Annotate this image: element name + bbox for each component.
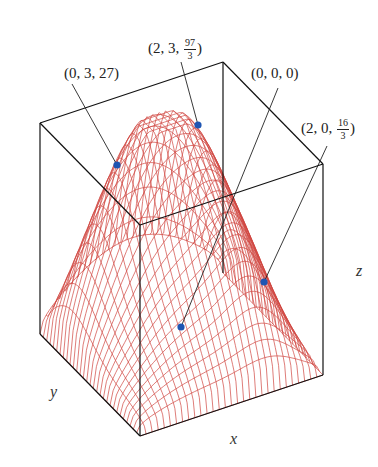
point-label-2-0-16-3: (2, 0, 163) xyxy=(301,118,355,141)
z-axis-label: z xyxy=(356,262,362,280)
point-label-2-3-97-3: (2, 3, 973) xyxy=(148,38,202,61)
critical-point-dot xyxy=(260,278,267,285)
point-label-0-3-27: (0, 3, 27) xyxy=(64,66,119,81)
surface-mesh xyxy=(40,111,323,436)
x-axis-label: x xyxy=(230,430,237,448)
critical-point-dot xyxy=(113,161,120,168)
critical-point-dot xyxy=(194,121,201,128)
fraction-16-3: 163 xyxy=(337,118,349,141)
critical-point-dot xyxy=(177,323,184,330)
point-label-0-0-0: (0, 0, 0) xyxy=(251,66,299,81)
fraction-97-3: 973 xyxy=(184,38,196,61)
y-axis-label: y xyxy=(50,383,57,401)
